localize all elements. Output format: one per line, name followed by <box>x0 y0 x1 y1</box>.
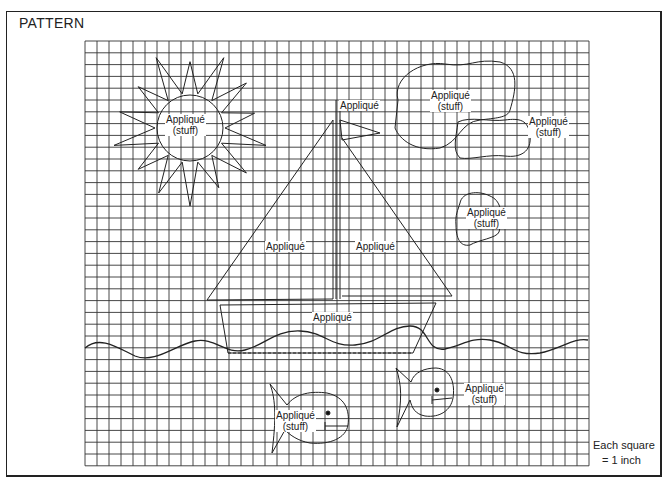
pattern-drawing <box>0 0 669 487</box>
scale-note-line2: = 1 inch <box>593 453 655 468</box>
sail-right-label: Appliqué <box>355 241 396 252</box>
fish-right-label: Appliqué(stuff) <box>464 383 505 405</box>
cloud-small-label: Appliqué(stuff) <box>528 116 569 138</box>
hull-label: Appliqué <box>312 312 353 323</box>
cloud-single-label: Appliqué(stuff) <box>466 207 507 229</box>
scale-note-line1: Each square <box>593 438 655 453</box>
grid-lines <box>85 41 589 466</box>
sail-left-label: Appliqué <box>265 241 306 252</box>
flag-label: Appliqué <box>339 100 380 111</box>
scale-note: Each square = 1 inch <box>593 438 655 468</box>
fish-left-label: Appliqué(stuff) <box>275 410 316 432</box>
cloud-large-label: Appliqué(stuff) <box>430 90 471 112</box>
sun-label: Appliqué(stuff) <box>165 114 206 136</box>
